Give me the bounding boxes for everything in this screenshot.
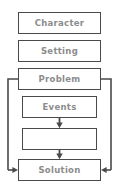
node-problem-label: Problem <box>39 75 81 84</box>
arrow-events-to-blank <box>56 118 62 128</box>
arrow-problem-right-to-solution <box>101 79 111 173</box>
node-solution[interactable]: Solution <box>18 159 101 181</box>
arrow-problem-left-to-solution <box>8 79 18 173</box>
node-events[interactable]: Events <box>22 96 97 118</box>
node-events-label: Events <box>42 103 76 112</box>
arrow-blank-to-solution <box>56 150 62 159</box>
node-blank[interactable] <box>22 128 97 150</box>
node-character[interactable]: Character <box>18 12 101 34</box>
node-character-label: Character <box>35 19 85 28</box>
node-setting-label: Setting <box>41 47 78 56</box>
node-problem[interactable]: Problem <box>18 68 101 90</box>
node-solution-label: Solution <box>38 166 80 175</box>
story-elements-diagram: Character Setting Problem Events Solutio… <box>0 0 119 191</box>
node-setting[interactable]: Setting <box>18 40 101 62</box>
